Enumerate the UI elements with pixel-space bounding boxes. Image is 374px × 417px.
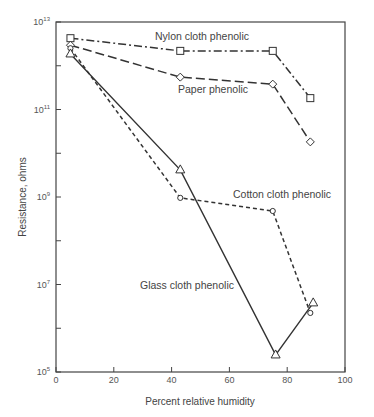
series-glass-cloth-phenolic: Glass cloth phenolic [66,49,318,358]
triangle-marker [309,298,318,306]
x-tick-label: 80 [282,375,292,385]
y-axis: 10131011109107105 [33,16,61,377]
diamond-marker [269,80,277,88]
x-tick-label: 20 [109,375,119,385]
x-axis-title: Percent relative humidity [145,396,255,407]
diamond-marker [306,138,314,146]
triangle-marker [66,49,75,57]
x-tick-label: 40 [167,375,177,385]
circle-marker [308,310,313,315]
y-tick-label: 109 [37,191,51,202]
y-tick-label: 1011 [34,104,51,115]
x-tick-label: 100 [337,375,352,385]
square-marker [177,47,184,54]
series-label: Glass cloth phenolic [140,279,234,291]
y-tick-label: 105 [37,366,51,377]
square-marker [269,47,276,54]
x-axis: 020406080100 [53,367,352,385]
chart: 10131011109107105 020406080100 Nylon clo… [0,0,374,417]
y-tick-label: 107 [37,279,51,290]
y-axis-title: Resistance, ohms [17,157,28,236]
series-label: Nylon cloth phenolic [155,30,249,42]
x-tick-label: 0 [53,375,58,385]
series-layer: Nylon cloth phenolicPaper phenolicCotton… [66,30,331,358]
circle-marker [178,195,183,200]
series-label: Paper phenolic [178,83,248,95]
series-label: Cotton cloth phenolic [233,188,331,200]
square-marker [307,95,314,102]
x-tick-label: 60 [224,375,234,385]
circle-marker [270,208,275,213]
diamond-marker [176,73,184,81]
y-tick-label: 1013 [33,16,50,27]
